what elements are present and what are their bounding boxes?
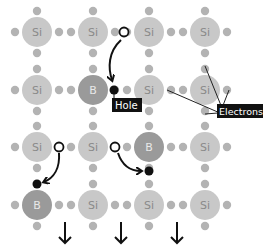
electron-dot — [89, 49, 97, 57]
electron-dot — [55, 201, 63, 209]
curved-arrow-icon — [110, 40, 121, 80]
silicon-atom: Si — [78, 190, 108, 220]
electron-dot — [145, 122, 153, 130]
electron-dot — [67, 201, 75, 209]
atom-symbol: Si — [32, 84, 42, 97]
electron-dot — [223, 28, 231, 36]
atom-symbol: Si — [200, 26, 210, 39]
atom-symbol: B — [89, 84, 97, 97]
electron-dot — [67, 143, 75, 151]
silicon-atom: Si — [78, 132, 108, 162]
atom-symbol: Si — [144, 199, 154, 212]
electron-dot — [55, 28, 63, 36]
atom-symbol: Si — [144, 26, 154, 39]
electron-dot — [89, 164, 97, 172]
electron-dot — [89, 7, 97, 15]
electrons-label: Electrons — [217, 104, 263, 118]
electron-dot — [201, 222, 209, 230]
silicon-atom: Si — [190, 17, 220, 47]
down-arrow-icon — [115, 222, 127, 243]
electron-dot — [89, 180, 97, 188]
current-direction-arrows — [59, 222, 183, 243]
hole-label-text: Hole — [115, 100, 138, 111]
electron-dot — [179, 201, 187, 209]
electron-dot — [223, 86, 231, 94]
electron-dot — [223, 143, 231, 151]
boron-atom: B — [22, 190, 52, 220]
down-arrow-icon — [171, 222, 183, 243]
electron-dot — [201, 164, 209, 172]
atom-symbol: Si — [32, 141, 42, 154]
electron-dot — [123, 201, 131, 209]
electron-dot — [167, 28, 175, 36]
electron-dot — [123, 86, 131, 94]
atom-symbol: Si — [200, 141, 210, 154]
electron-dot — [145, 65, 153, 73]
electron-dot — [223, 201, 231, 209]
electron-dot — [167, 143, 175, 151]
atoms: SiSiSiSiSiBSiSiSiSiBSiBSiSiSi — [22, 17, 220, 220]
atom-symbol: Si — [88, 141, 98, 154]
electron-dot — [89, 122, 97, 130]
electron-dot — [179, 143, 187, 151]
doped-silicon-lattice-diagram: SiSiSiSiSiBSiSiSiSiBSiBSiSiSi Hole Elect… — [0, 0, 264, 249]
down-arrow-icon — [59, 222, 71, 243]
electron-dot — [145, 222, 153, 230]
electron-dot — [33, 7, 41, 15]
electron-dot — [179, 86, 187, 94]
electron-dot — [89, 222, 97, 230]
electrons-label-text: Electrons — [219, 106, 263, 117]
electron-dot — [201, 180, 209, 188]
electron-dot — [145, 49, 153, 57]
atom-symbol: B — [33, 199, 41, 212]
electron-dot — [11, 28, 19, 36]
vacated-electron-site — [55, 143, 64, 152]
atom-symbol: Si — [32, 26, 42, 39]
electron-dot — [89, 65, 97, 73]
silicon-atom: Si — [22, 132, 52, 162]
silicon-atom: Si — [134, 190, 164, 220]
silicon-atom: Si — [190, 75, 220, 105]
silicon-atom: Si — [190, 132, 220, 162]
hole-dot — [110, 86, 119, 95]
boron-atom: B — [78, 75, 108, 105]
atom-symbol: Si — [144, 84, 154, 97]
electron-dot — [111, 201, 119, 209]
atom-symbol: B — [145, 141, 153, 154]
electron-dot — [11, 86, 19, 94]
electron-dot — [33, 122, 41, 130]
electron-dot — [201, 7, 209, 15]
electron-dot — [11, 143, 19, 151]
vacated-electron-site — [120, 28, 129, 37]
electron-dot — [123, 143, 131, 151]
vacated-electron-site — [111, 143, 120, 152]
electron-dot — [145, 107, 153, 115]
electron-dot — [201, 122, 209, 130]
electron-dot — [179, 28, 187, 36]
electron-dot — [33, 65, 41, 73]
electron-dot — [201, 49, 209, 57]
electron-dot — [33, 49, 41, 57]
silicon-atom: Si — [78, 17, 108, 47]
electron-dot — [33, 222, 41, 230]
silicon-atom: Si — [190, 190, 220, 220]
electron-dot — [67, 86, 75, 94]
electron-dot — [111, 28, 119, 36]
electron-dot — [145, 7, 153, 15]
electron-dot — [33, 107, 41, 115]
silicon-atom: Si — [22, 17, 52, 47]
atom-symbol: Si — [200, 84, 210, 97]
hole-dot — [33, 180, 42, 189]
hole-dot — [145, 167, 154, 176]
electron-dot — [11, 201, 19, 209]
atom-symbol: Si — [88, 199, 98, 212]
atom-symbol: Si — [200, 199, 210, 212]
atom-symbol: Si — [88, 26, 98, 39]
electron-dot — [67, 28, 75, 36]
electron-dot — [33, 164, 41, 172]
electron-dot — [89, 107, 97, 115]
electron-dot — [167, 201, 175, 209]
silicon-atom: Si — [22, 75, 52, 105]
boron-atom: B — [134, 132, 164, 162]
electron-dot — [145, 180, 153, 188]
